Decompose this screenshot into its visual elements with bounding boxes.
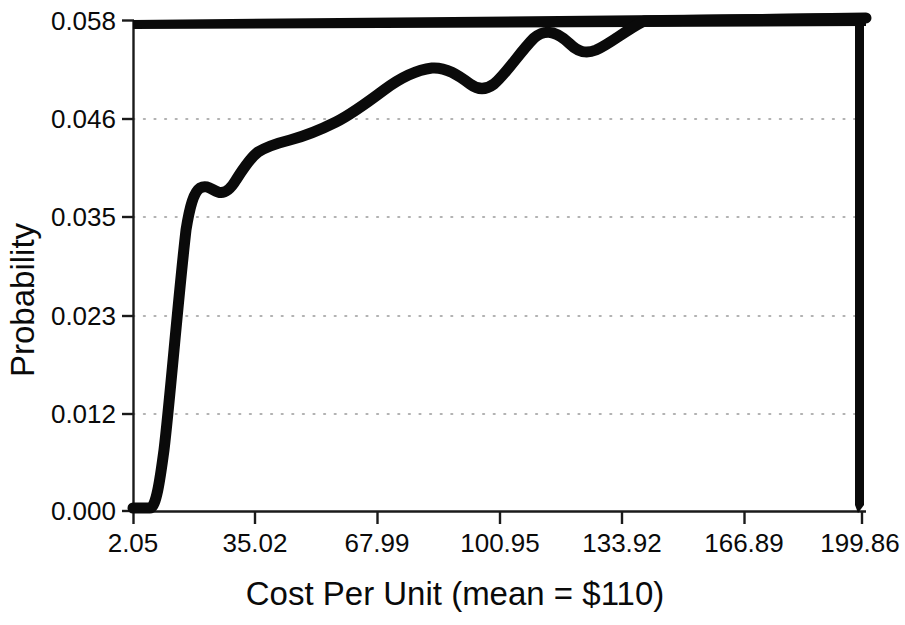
y-tick-label-0023: 0.023 — [51, 301, 116, 331]
x-tick-label-16689: 166.89 — [704, 528, 784, 558]
x-axis-title: Cost Per Unit (mean = $110) — [246, 575, 665, 612]
x-tick-label-13392: 133.92 — [582, 528, 662, 558]
probability-cdf-chart: 0.058 0.046 0.035 0.023 0.012 0.000 2.05… — [0, 0, 905, 625]
y-tick-label-0058: 0.058 — [51, 6, 116, 36]
x-tick-label-3502: 35.02 — [222, 528, 287, 558]
x-tick-label-6799: 67.99 — [344, 528, 409, 558]
y-tick-label-0012: 0.012 — [51, 399, 116, 429]
y-axis-title: Probability — [4, 222, 41, 377]
x-tick-label-205: 2.05 — [108, 528, 159, 558]
y-tick-label-0035: 0.035 — [51, 202, 116, 232]
y-tick-label-0000: 0.000 — [51, 496, 116, 526]
curve-zero-foot — [133, 504, 152, 513]
right-boundary-drop — [855, 18, 864, 513]
x-tick-label-10095: 100.95 — [460, 528, 540, 558]
x-tick-label-19986: 199.86 — [820, 528, 900, 558]
y-tick-label-0046: 0.046 — [51, 104, 116, 134]
chart-page: 0.058 0.046 0.035 0.023 0.012 0.000 2.05… — [0, 0, 905, 625]
